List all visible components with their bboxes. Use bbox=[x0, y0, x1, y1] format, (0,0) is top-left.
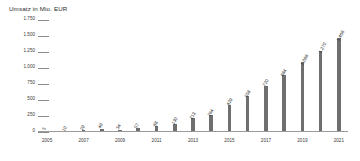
plot-area: 02505007501.0001.2501.5001.750 510294934… bbox=[38, 20, 348, 132]
bar-column[interactable]: 264 bbox=[202, 115, 220, 132]
x-tick-label: 2017 bbox=[261, 138, 271, 143]
y-tick-label: 1.750 bbox=[24, 16, 36, 21]
y-tick-label: 1.000 bbox=[24, 64, 36, 69]
x-tick-label: 2009 bbox=[115, 138, 125, 143]
bar-value-label: 49 bbox=[97, 123, 104, 130]
bar-column[interactable]: 1.088 bbox=[293, 62, 311, 132]
bar-value-label: 1.468 bbox=[336, 29, 346, 41]
bar-value-label: 429 bbox=[225, 97, 233, 106]
y-tick-label: 750 bbox=[27, 80, 35, 85]
x-tick-label: 2021 bbox=[334, 138, 344, 143]
bar[interactable]: 558 bbox=[246, 96, 250, 132]
y-tick-label: 1.250 bbox=[24, 48, 36, 53]
bar-column[interactable]: 720 bbox=[257, 86, 275, 132]
bar-column[interactable]: 213 bbox=[184, 118, 202, 132]
y-tick-label: 0 bbox=[32, 128, 35, 133]
x-tick-label: 2011 bbox=[152, 138, 162, 143]
bar-series: 51029493457881302132644295587208841.0881… bbox=[38, 20, 348, 132]
bar-value-label: 1.088 bbox=[299, 53, 309, 65]
bar[interactable]: 1.088 bbox=[301, 62, 305, 132]
bar-value-label: 264 bbox=[207, 108, 215, 117]
bar-value-label: 558 bbox=[243, 89, 251, 98]
bar-column[interactable]: 884 bbox=[275, 75, 293, 132]
bar[interactable]: 720 bbox=[264, 86, 268, 132]
x-axis-line bbox=[38, 131, 348, 132]
x-axis-labels: 200520072009201120132015201720192021 bbox=[38, 138, 348, 154]
y-tick-label: 250 bbox=[27, 112, 35, 117]
bar[interactable]: 1.468 bbox=[337, 38, 341, 132]
bar[interactable]: 1.270 bbox=[319, 51, 323, 132]
bar-column[interactable]: 558 bbox=[239, 96, 257, 132]
chart-title: Umsatz in Mio. EUR bbox=[9, 5, 67, 12]
bar-column[interactable]: 429 bbox=[220, 105, 238, 132]
bar-value-label: 720 bbox=[262, 79, 270, 88]
y-tick-mark bbox=[38, 132, 49, 133]
bar-value-label: 130 bbox=[171, 116, 179, 125]
x-tick-label: 2019 bbox=[297, 138, 307, 143]
bar-column[interactable]: 1.270 bbox=[312, 51, 330, 132]
bar-value-label: 29 bbox=[79, 124, 86, 131]
x-tick-label: 2007 bbox=[78, 138, 88, 143]
x-tick-label: 2015 bbox=[224, 138, 234, 143]
bar[interactable]: 264 bbox=[209, 115, 213, 132]
bar-value-label: 884 bbox=[280, 68, 288, 77]
bar-value-label: 57 bbox=[133, 122, 140, 129]
x-tick-label: 2013 bbox=[188, 138, 198, 143]
bar[interactable]: 429 bbox=[228, 105, 232, 132]
bar-value-label: 34 bbox=[115, 124, 122, 131]
bar-value-label: 213 bbox=[189, 111, 197, 120]
revenue-bar-chart: Umsatz in Mio. EUR 02505007501.0001.2501… bbox=[0, 0, 360, 161]
bar-column[interactable]: 1.468 bbox=[330, 38, 348, 132]
bar[interactable]: 213 bbox=[191, 118, 195, 132]
y-tick-label: 1.500 bbox=[24, 32, 36, 37]
y-tick-label: 500 bbox=[27, 96, 35, 101]
bar[interactable]: 884 bbox=[282, 75, 286, 132]
x-tick-label: 2005 bbox=[42, 138, 52, 143]
bar-value-label: 1.270 bbox=[317, 42, 327, 54]
bar-value-label: 88 bbox=[152, 120, 159, 127]
